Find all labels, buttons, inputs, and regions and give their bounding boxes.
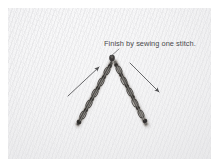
- right-stitch-arm: [114, 62, 148, 124]
- image-canvas: Finish by sewing one stitch.: [0, 0, 219, 168]
- instruction-caption: Finish by sewing one stitch.: [104, 39, 196, 48]
- caption-leader-line: [110, 49, 119, 57]
- stitch-illustration: [0, 0, 219, 168]
- right-direction-arrow: [130, 63, 159, 92]
- stitch-shadow: [78, 62, 147, 125]
- apex-finishing-stitch: [109, 55, 115, 61]
